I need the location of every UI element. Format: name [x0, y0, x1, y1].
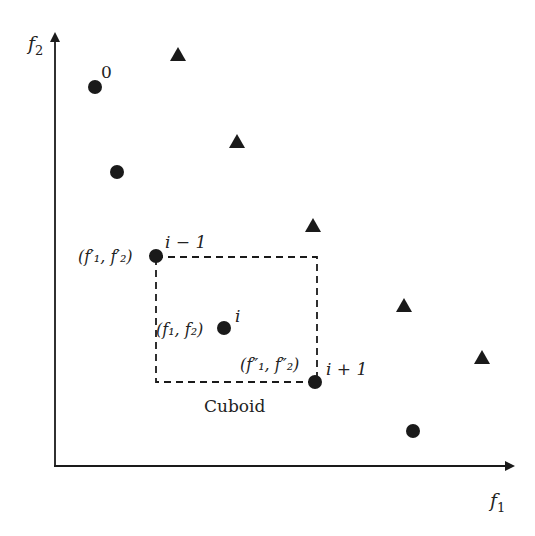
triangle-point — [474, 350, 490, 364]
label-i-plus-1: i + 1 — [326, 359, 367, 379]
x-axis-label: f1 — [488, 489, 505, 515]
coord-cur: (f₁, f₂) — [156, 320, 203, 339]
point-i-minus-1 — [149, 249, 163, 263]
triangle-point — [305, 218, 321, 232]
cuboid-label: Cuboid — [204, 396, 266, 416]
point-circle — [110, 165, 124, 179]
point-i-plus-1 — [308, 375, 322, 389]
point-0 — [88, 80, 102, 94]
circle-points — [88, 80, 420, 438]
coord-prev: (f′₁, f′₂) — [78, 247, 133, 266]
label-i-minus-1: i − 1 — [165, 232, 206, 252]
triangle-point — [229, 134, 245, 148]
triangle-point — [170, 47, 186, 61]
y-axis-label: f2 — [26, 32, 43, 58]
triangle-points — [170, 47, 490, 364]
cuboid-diagram: f2 f1 Cuboid 0 i − 1 i i + 1 (f′₁, f′₂) … — [0, 0, 535, 536]
label-i: i — [235, 306, 240, 326]
coord-next: (f″₁, f″₂) — [240, 355, 299, 374]
triangle-point — [396, 298, 412, 312]
point-i — [217, 321, 231, 335]
label-0: 0 — [101, 62, 112, 82]
point-circle — [406, 424, 420, 438]
